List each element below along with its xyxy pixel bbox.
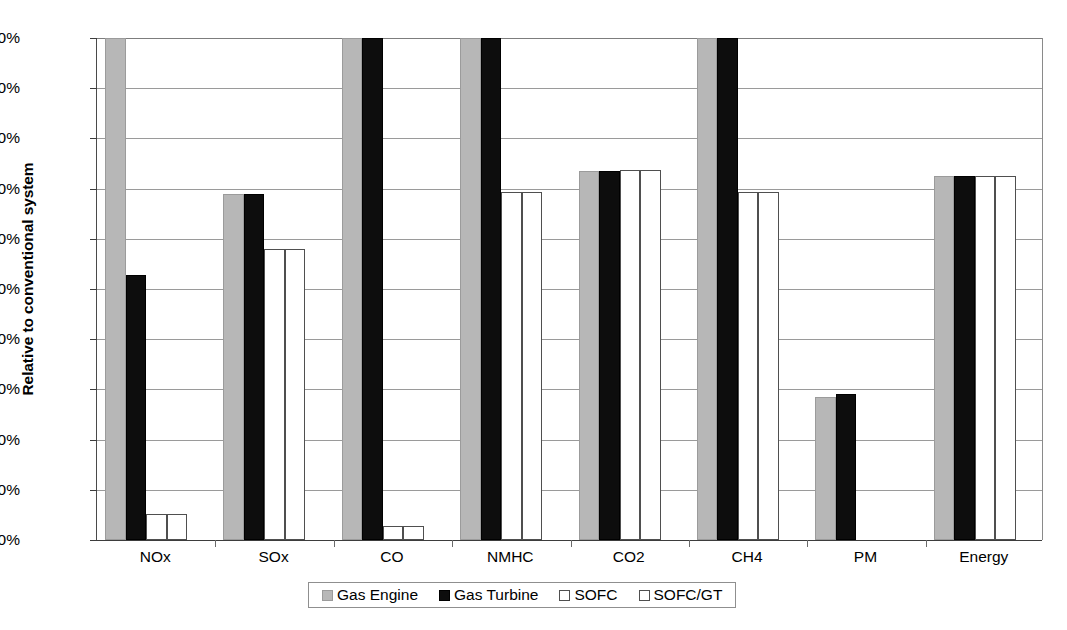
bar xyxy=(167,514,188,540)
bar xyxy=(403,526,424,540)
y-tick-label: 50% xyxy=(0,280,20,298)
y-tick-mark xyxy=(90,540,97,541)
bar xyxy=(223,194,244,540)
x-tick-label: PM xyxy=(854,548,877,566)
bars-layer xyxy=(97,38,1042,540)
legend-label: Gas Turbine xyxy=(454,586,538,604)
y-tick-mark xyxy=(90,289,97,290)
legend-swatch-icon xyxy=(639,590,650,601)
legend-swatch-icon xyxy=(559,590,570,601)
y-tick-label: 30% xyxy=(0,380,20,398)
x-tick-label: CO xyxy=(380,548,403,566)
x-tick-label: CO2 xyxy=(613,548,645,566)
y-tick-mark xyxy=(90,239,97,240)
bar-group xyxy=(807,38,925,540)
legend-swatch-icon xyxy=(439,590,450,601)
bar-group xyxy=(571,38,689,540)
y-tick-mark xyxy=(90,389,97,390)
legend-swatch-icon xyxy=(322,590,333,601)
bar xyxy=(697,38,718,540)
legend-item: SOFC xyxy=(559,586,617,604)
y-tick-label: 60% xyxy=(0,230,20,248)
bar xyxy=(244,194,265,540)
y-tick-label: 0% xyxy=(0,531,20,549)
bar xyxy=(522,192,543,540)
bar xyxy=(995,176,1016,540)
bar xyxy=(738,192,759,540)
y-tick-label: 20% xyxy=(0,431,20,449)
y-tick-label: 70% xyxy=(0,180,20,198)
y-axis-title: Relative to conventional system xyxy=(19,79,37,479)
x-tick-label: NMHC xyxy=(487,548,534,566)
bar xyxy=(815,397,836,540)
legend-item: Gas Turbine xyxy=(439,586,538,604)
y-tick-label: 80% xyxy=(0,129,20,147)
bar xyxy=(620,170,641,540)
legend-label: Gas Engine xyxy=(337,586,418,604)
bar xyxy=(758,192,779,540)
bar xyxy=(934,176,955,540)
x-tick-mark xyxy=(807,540,808,547)
y-tick-mark xyxy=(90,38,97,39)
y-tick-mark xyxy=(90,138,97,139)
bar xyxy=(342,38,363,540)
x-tick-mark xyxy=(452,540,453,547)
x-tick-label: NOx xyxy=(140,548,171,566)
bar-group xyxy=(452,38,570,540)
x-tick-mark xyxy=(571,540,572,547)
y-tick-mark xyxy=(90,490,97,491)
bar-group xyxy=(926,38,1044,540)
gridline xyxy=(97,540,1042,541)
y-tick-mark xyxy=(90,88,97,89)
bar xyxy=(640,170,661,540)
bar xyxy=(836,394,857,540)
chart-legend: Gas EngineGas TurbineSOFCSOFC/GT xyxy=(308,582,736,608)
x-tick-label: Energy xyxy=(959,548,1008,566)
y-tick-label: 40% xyxy=(0,330,20,348)
bar xyxy=(975,176,996,540)
bar xyxy=(126,275,147,540)
bar xyxy=(717,38,738,540)
y-tick-mark xyxy=(90,440,97,441)
bar xyxy=(285,249,306,540)
y-tick-mark xyxy=(90,189,97,190)
x-tick-mark xyxy=(926,540,927,547)
legend-label: SOFC xyxy=(574,586,617,604)
x-tick-label: CH4 xyxy=(732,548,763,566)
legend-item: Gas Engine xyxy=(322,586,418,604)
bar xyxy=(954,176,975,540)
y-tick-label: 10% xyxy=(0,481,20,499)
legend-label: SOFC/GT xyxy=(654,586,723,604)
bar xyxy=(383,526,404,540)
bar xyxy=(460,38,481,540)
legend-item: SOFC/GT xyxy=(639,586,723,604)
bar xyxy=(362,38,383,540)
bar xyxy=(105,38,126,540)
bar xyxy=(264,249,285,540)
bar xyxy=(579,171,600,540)
bar xyxy=(501,192,522,540)
y-tick-label: 90% xyxy=(0,79,20,97)
y-tick-label: 100% xyxy=(0,29,20,47)
bar-group xyxy=(97,38,215,540)
x-tick-mark xyxy=(334,540,335,547)
y-tick-mark xyxy=(90,339,97,340)
bar xyxy=(146,514,167,540)
x-tick-label: SOx xyxy=(258,548,288,566)
bar-chart: Relative to conventional system 0%10%20%… xyxy=(0,0,1067,630)
bar-group xyxy=(334,38,452,540)
bar xyxy=(481,38,502,540)
x-tick-mark xyxy=(689,540,690,547)
bar xyxy=(599,171,620,540)
bar-group xyxy=(215,38,333,540)
bar-group xyxy=(689,38,807,540)
plot-area xyxy=(96,38,1043,540)
x-tick-mark xyxy=(215,540,216,547)
